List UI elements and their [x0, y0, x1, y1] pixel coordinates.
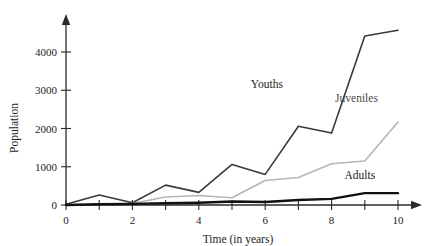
x-axis-title: Time (in years): [203, 233, 274, 246]
series-label-adults: Adults: [344, 169, 375, 181]
x-tick-label: 6: [262, 214, 268, 226]
y-tick-label: 1000: [35, 161, 58, 173]
x-tick-label: 2: [130, 214, 136, 226]
x-axis-arrowhead: [411, 201, 422, 209]
series-line-juveniles: [66, 122, 398, 205]
x-tick-label: 0: [63, 214, 69, 226]
x-tick-label: 4: [196, 214, 202, 226]
x-tick-label: 8: [329, 214, 335, 226]
series-label-juveniles: Juveniles: [335, 92, 378, 104]
line-chart: 01000200030004000 0246810 YouthsJuvenile…: [0, 0, 438, 246]
y-tick-label: 3000: [35, 84, 58, 96]
series-label-youths: Youths: [251, 78, 284, 90]
y-axis-arrowhead: [62, 14, 70, 25]
chart-canvas: 01000200030004000 0246810 YouthsJuvenile…: [0, 0, 438, 246]
y-tick-label: 0: [52, 199, 58, 211]
x-tick-label: 10: [393, 214, 405, 226]
y-axis-title: Population: [8, 103, 21, 153]
y-tick-label: 4000: [35, 46, 58, 58]
y-tick-label: 2000: [35, 123, 58, 135]
